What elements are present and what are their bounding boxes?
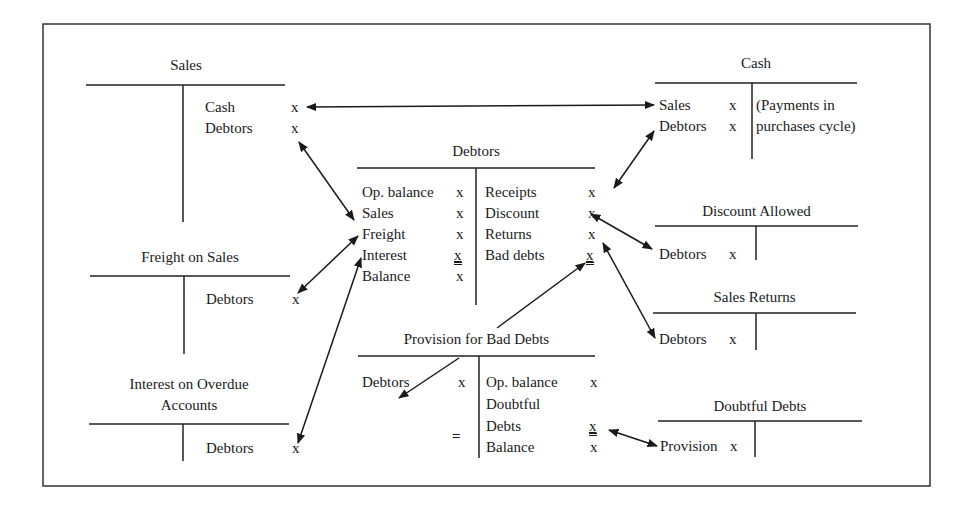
entry-label: Freight bbox=[362, 224, 405, 245]
cash-credit-note: purchases cycle) bbox=[756, 116, 856, 137]
entry-amount: x bbox=[456, 182, 464, 203]
account-title-cash: Cash bbox=[655, 53, 857, 74]
entry-amount-total: x bbox=[586, 245, 594, 266]
entry-label: Debtors bbox=[205, 118, 253, 139]
account-title-sales: Sales bbox=[86, 55, 286, 76]
entry-amount: x bbox=[729, 116, 737, 137]
entry-label: Debtors bbox=[659, 329, 707, 350]
entry-amount: x bbox=[458, 372, 466, 393]
entry-amount: x bbox=[291, 118, 299, 139]
cash-credit-note: (Payments in bbox=[756, 95, 835, 116]
entry-label: Doubtful bbox=[486, 394, 540, 415]
entry-label: Cash bbox=[205, 97, 235, 118]
entry-amount: x bbox=[590, 372, 598, 393]
entry-amount: x bbox=[588, 224, 596, 245]
entry-label: Receipts bbox=[485, 182, 537, 203]
entry-label: Bad debts bbox=[485, 245, 545, 266]
entry-label: Balance bbox=[362, 266, 410, 287]
account-title-interest-line2: Accounts bbox=[89, 395, 289, 416]
entry-amount: x bbox=[588, 182, 596, 203]
entry-label: Discount bbox=[485, 203, 539, 224]
entry-label: Debtors bbox=[659, 116, 707, 137]
entry-amount: x bbox=[588, 203, 596, 224]
account-title-discount: Discount Allowed bbox=[655, 201, 858, 222]
account-title-sales-returns: Sales Returns bbox=[653, 287, 856, 308]
entry-label: Interest bbox=[362, 245, 407, 266]
entry-label: Sales bbox=[659, 95, 691, 116]
entry-label: Provision bbox=[660, 436, 718, 457]
diagram-canvas: Sales Cash x Debtors x Cash Sales x Debt… bbox=[0, 0, 969, 523]
entry-label: Op. balance bbox=[486, 372, 558, 393]
total-mark: = bbox=[452, 426, 461, 447]
total-amount: x bbox=[589, 419, 597, 436]
account-title-doubtful: Doubtful Debts bbox=[658, 396, 862, 417]
entry-label: Op. balance bbox=[362, 182, 434, 203]
entry-amount: x bbox=[456, 224, 464, 245]
account-title-provision: Provision for Bad Debts bbox=[358, 329, 595, 350]
entry-label: Debtors bbox=[206, 289, 254, 310]
entry-amount: x bbox=[292, 438, 300, 459]
entry-amount: x bbox=[456, 266, 464, 287]
entry-label: Debts bbox=[486, 416, 521, 437]
total-amount: x bbox=[586, 248, 594, 265]
entry-label: Sales bbox=[362, 203, 394, 224]
entry-amount: x bbox=[730, 436, 738, 457]
entry-amount: x bbox=[729, 329, 737, 350]
entry-amount: x bbox=[729, 244, 737, 265]
entry-amount-total: x bbox=[589, 416, 597, 437]
entry-label: Returns bbox=[485, 224, 532, 245]
entry-amount: x bbox=[292, 289, 300, 310]
account-title-debtors: Debtors bbox=[357, 141, 595, 162]
entry-label: Debtors bbox=[206, 438, 254, 459]
account-title-freight: Freight on Sales bbox=[90, 247, 290, 268]
entry-amount: x bbox=[729, 95, 737, 116]
total-amount: x bbox=[454, 248, 462, 265]
entry-amount: x bbox=[590, 437, 598, 458]
entry-label: Debtors bbox=[362, 372, 410, 393]
entry-label: Balance bbox=[486, 437, 534, 458]
entry-amount: x bbox=[456, 203, 464, 224]
entry-amount-total: x bbox=[454, 245, 462, 266]
entry-amount: x bbox=[291, 97, 299, 118]
entry-label: Debtors bbox=[659, 244, 707, 265]
account-title-interest-line1: Interest on Overdue bbox=[89, 374, 289, 395]
